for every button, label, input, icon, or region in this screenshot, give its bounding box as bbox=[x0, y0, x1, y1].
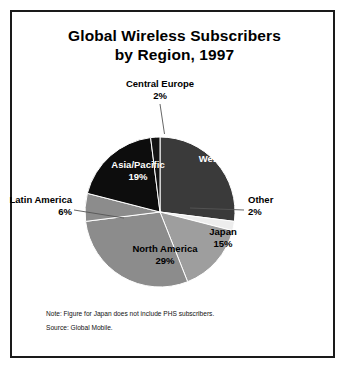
slice-value-western-europe: 27% bbox=[187, 165, 283, 177]
slice-value-other: 2% bbox=[248, 206, 296, 218]
source-text: Source: Global Mobile. bbox=[46, 322, 316, 334]
slice-name-latin-america: Latin America bbox=[0, 194, 72, 206]
slice-value-latin-america: 6% bbox=[0, 206, 72, 218]
slice-name-other: Other bbox=[248, 194, 296, 206]
slice-name-central-europe: Central Europe bbox=[108, 78, 212, 90]
slice-label-asia-pacific: Asia/Pacific 19% bbox=[88, 159, 188, 182]
note-text: Note: Figure for Japan does not include … bbox=[46, 308, 316, 320]
slice-value-asia-pacific: 19% bbox=[88, 171, 188, 183]
slice-value-central-europe: 2% bbox=[108, 90, 212, 102]
slice-name-north-america: North America bbox=[110, 243, 220, 255]
slice-name-western-europe: Western Europe bbox=[187, 153, 283, 165]
slice-label-western-europe: Western Europe 27% bbox=[187, 153, 283, 176]
slice-name-japan: Japan bbox=[200, 226, 246, 238]
slice-label-central-europe: Central Europe 2% bbox=[108, 78, 212, 101]
slice-label-latin-america: Latin America 6% bbox=[0, 194, 72, 217]
slice-label-north-america: North America 29% bbox=[110, 243, 220, 266]
slice-name-asia-pacific: Asia/Pacific bbox=[88, 159, 188, 171]
slice-value-north-america: 29% bbox=[110, 255, 220, 267]
leader-line-central-europe bbox=[160, 104, 165, 134]
slice-label-other: Other 2% bbox=[248, 194, 296, 217]
figure-notes: Note: Figure for Japan does not include … bbox=[46, 308, 316, 334]
figure-frame: Global Wireless Subscribers by Region, 1… bbox=[10, 10, 335, 358]
